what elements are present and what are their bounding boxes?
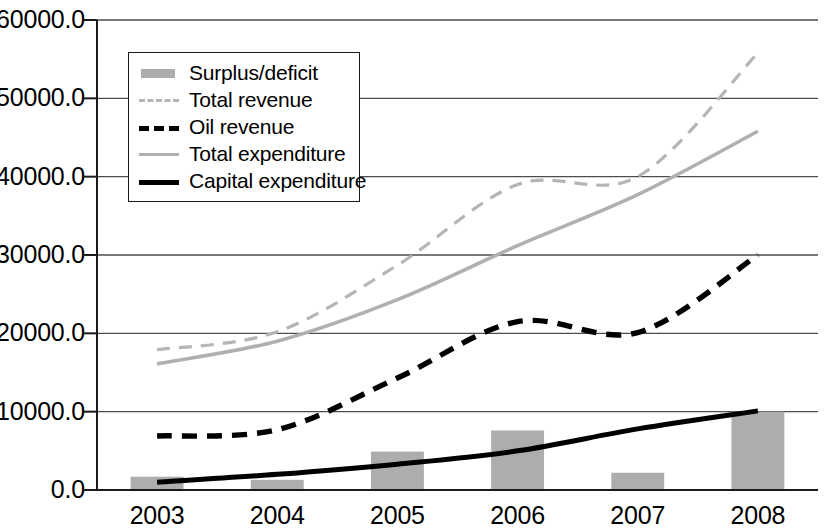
- x-axis-tick-label: 2007: [578, 503, 698, 528]
- dashed-light-line-icon: [138, 90, 180, 110]
- legend-item: Total expenditure: [129, 140, 359, 167]
- solid-light-line-icon: [138, 144, 180, 164]
- legend-swatch-mark: [139, 126, 179, 131]
- x-axis-tick-label: 2006: [458, 503, 578, 528]
- x-axis-tick-label: 2005: [337, 503, 457, 528]
- legend-item: Capital expenditure: [129, 167, 359, 194]
- chart-legend: Surplus/deficitTotal revenueOil revenueT…: [128, 52, 360, 202]
- x-axis-tick-label: 2004: [217, 503, 337, 528]
- legend-swatch-mark: [141, 69, 175, 78]
- legend-item-label: Total revenue: [189, 89, 312, 110]
- legend-item-label: Capital expenditure: [189, 170, 366, 191]
- x-axis-tick-label: 2003: [97, 503, 217, 528]
- chart-figure: 60000.050000.040000.030000.020000.010000…: [0, 0, 824, 531]
- dashed-dark-line-icon: [138, 117, 180, 137]
- legend-item: Oil revenue: [129, 113, 359, 140]
- legend-item-label: Oil revenue: [189, 116, 294, 137]
- x-axis-tick-label: 2008: [698, 503, 818, 528]
- legend-item-label: Surplus/deficit: [189, 62, 318, 83]
- legend-item: Total revenue: [129, 86, 359, 113]
- legend-item: Surplus/deficit: [129, 59, 359, 86]
- legend-swatch-mark: [139, 99, 179, 102]
- x-axis-tick-labels: 200320042005200620072008: [0, 0, 824, 531]
- legend-item-label: Total expenditure: [189, 143, 346, 164]
- legend-swatch-mark: [139, 153, 179, 156]
- legend-swatch-mark: [139, 180, 179, 185]
- solid-dark-line-icon: [138, 171, 180, 191]
- bar-icon: [138, 63, 180, 83]
